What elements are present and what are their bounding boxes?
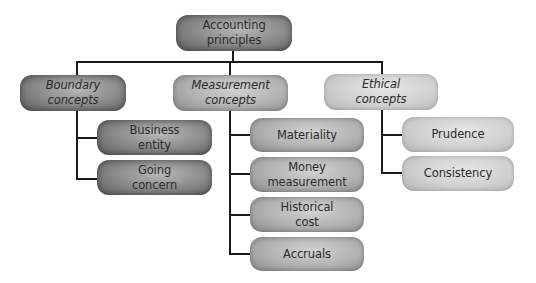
connector-going-concern xyxy=(76,178,98,180)
node-going-concern: Going concern xyxy=(97,160,212,195)
node-label-line2: concepts xyxy=(191,93,269,108)
node-boundary-concepts: Boundary concepts xyxy=(20,75,126,111)
node-label-line1: Consistency xyxy=(424,166,492,181)
connector-business-entity xyxy=(76,137,98,139)
node-label-line1: Business xyxy=(130,123,180,138)
node-label-line1: Boundary xyxy=(46,78,101,93)
connector-ethical-trunk xyxy=(381,110,383,174)
node-measurement-concepts: Measurement concepts xyxy=(173,75,288,111)
node-label-line2: concepts xyxy=(46,93,101,108)
connector-ethical-up xyxy=(381,61,383,75)
node-label-line1: Money xyxy=(267,160,346,175)
node-label-line1: Accounting xyxy=(202,18,265,33)
connector-prudence xyxy=(381,134,403,136)
node-label-line2: concepts xyxy=(355,92,406,107)
node-business-entity: Business entity xyxy=(97,120,212,155)
node-label-line1: Measurement xyxy=(191,78,269,93)
accounting-principles-diagram: Accounting principles Boundary concepts … xyxy=(0,0,536,283)
node-money-measurement: Money measurement xyxy=(250,157,364,192)
node-label-line1: Materiality xyxy=(277,128,337,143)
node-label-line1: Ethical xyxy=(355,77,406,92)
connector-materiality xyxy=(229,134,251,136)
node-label-line2: measurement xyxy=(267,175,346,190)
connector-historical-cost xyxy=(229,214,251,216)
connector-boundary-trunk xyxy=(76,110,78,179)
node-label-line2: principles xyxy=(202,33,265,48)
connector-measurement-up xyxy=(229,61,231,75)
connector-accruals xyxy=(229,253,251,255)
node-accruals: Accruals xyxy=(250,237,364,271)
node-label-line1: Accruals xyxy=(283,247,331,262)
node-consistency: Consistency xyxy=(402,156,514,191)
node-materiality: Materiality xyxy=(250,118,364,152)
node-prudence: Prudence xyxy=(402,117,514,152)
node-label-line2: cost xyxy=(281,215,334,230)
connector-money-measurement xyxy=(229,173,251,175)
node-ethical-concepts: Ethical concepts xyxy=(324,74,438,110)
connector-consistency xyxy=(381,172,403,174)
node-accounting-principles: Accounting principles xyxy=(176,15,292,51)
node-label-line1: Going xyxy=(132,163,177,178)
node-label-line1: Prudence xyxy=(431,127,484,142)
connector-boundary-up xyxy=(76,61,78,75)
node-label-line1: Historical xyxy=(281,200,334,215)
node-label-line2: concern xyxy=(132,178,177,193)
connector-measurement-trunk xyxy=(229,110,231,255)
node-historical-cost: Historical cost xyxy=(250,197,364,232)
node-label-line2: entity xyxy=(130,138,180,153)
